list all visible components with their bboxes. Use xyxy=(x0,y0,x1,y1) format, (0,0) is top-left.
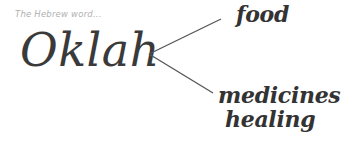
branch-line-lower xyxy=(149,54,213,93)
meaning-medicines: medicines xyxy=(218,83,340,107)
meaning-food: food xyxy=(236,2,289,26)
branch-line-upper xyxy=(149,19,221,54)
meaning-healing: healing xyxy=(225,107,315,131)
